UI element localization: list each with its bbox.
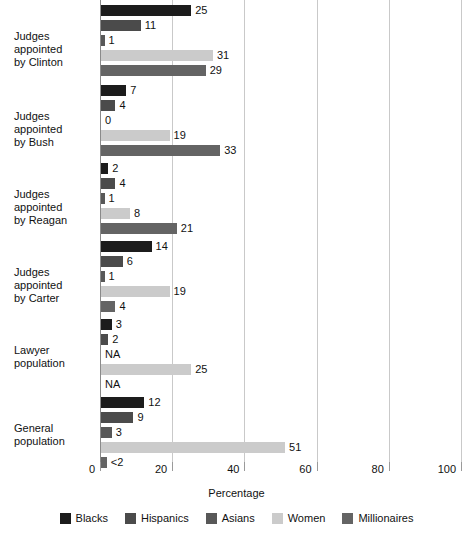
- legend-swatch-icon: [272, 513, 283, 524]
- category-label-1: Judges appointedby Bush: [14, 110, 98, 149]
- bar-chart: 2511131297401933241821146119432NA25NA129…: [0, 0, 473, 538]
- bar-value-label: 14: [156, 241, 168, 252]
- tick-mark-0: [100, 462, 101, 471]
- gridline-60: [317, 0, 318, 462]
- legend-label: Women: [288, 513, 326, 524]
- category-label-line1: Judges appointed: [14, 30, 98, 56]
- category-label-line2: by Clinton: [14, 56, 98, 69]
- bar: [101, 334, 108, 345]
- bar-na-label: NA: [105, 349, 120, 360]
- bar: [101, 397, 144, 408]
- legend-swatch-icon: [342, 513, 353, 524]
- category-label-line1: Judges appointed: [14, 266, 98, 292]
- tick-label-20: 20: [155, 463, 170, 475]
- x-axis-title: Percentage: [0, 487, 473, 499]
- bar: [101, 457, 107, 468]
- bar: [101, 85, 126, 96]
- bar-value-label: 12: [148, 397, 160, 408]
- bar-value-label: 33: [224, 145, 236, 156]
- bar-na-label: 0: [105, 115, 111, 126]
- tick-mark-60: [317, 462, 318, 471]
- bar-value-label: 29: [210, 65, 222, 76]
- bar-value-label: 21: [181, 223, 193, 234]
- bar-value-label: 1: [109, 35, 115, 46]
- bar-value-label: 3: [116, 427, 122, 438]
- category-label-line1: Judges appointed: [14, 110, 98, 136]
- category-label-3: Judges appointedby Carter: [14, 266, 98, 305]
- bar-value-label: 1: [109, 193, 115, 204]
- category-label-2: Judges appointedby Reagan: [14, 188, 98, 227]
- legend-item-women[interactable]: Women: [272, 513, 326, 524]
- bar-value-label: <2: [111, 457, 124, 468]
- bar: [101, 65, 206, 76]
- bar-value-label: 1: [109, 271, 115, 282]
- bar-value-label: 3: [116, 319, 122, 330]
- bar: [101, 442, 285, 453]
- category-label-4: Lawyerpopulation: [14, 344, 98, 370]
- bar: [101, 256, 123, 267]
- bar: [101, 301, 115, 312]
- plot-area: [100, 0, 461, 462]
- gridline-40: [244, 0, 245, 462]
- legend-item-asians[interactable]: Asians: [206, 513, 255, 524]
- bar-na-label: NA: [105, 379, 120, 390]
- bar: [101, 319, 112, 330]
- bar-value-label: 8: [134, 208, 140, 219]
- bar: [101, 427, 112, 438]
- bar: [101, 35, 105, 46]
- bar: [101, 241, 152, 252]
- legend-item-blacks[interactable]: Blacks: [60, 513, 108, 524]
- tick-label-100: 100: [438, 463, 459, 475]
- bar-value-label: 9: [137, 412, 143, 423]
- bar: [101, 130, 170, 141]
- category-label-line2: by Carter: [14, 292, 98, 305]
- category-label-line2: by Reagan: [14, 214, 98, 227]
- tick-mark-40: [244, 462, 245, 471]
- tick-label-80: 80: [372, 463, 387, 475]
- bar: [101, 50, 213, 61]
- category-label-line2: population: [14, 357, 98, 370]
- legend-swatch-icon: [206, 513, 217, 524]
- bar-value-label: 2: [112, 163, 118, 174]
- bar-value-label: 19: [174, 286, 186, 297]
- category-label-line1: General: [14, 422, 98, 435]
- gridline-80: [389, 0, 390, 462]
- legend-label: Blacks: [76, 513, 108, 524]
- legend-label: Hispanics: [141, 513, 189, 524]
- bar: [101, 193, 105, 204]
- tick-mark-20: [172, 462, 173, 471]
- bar: [101, 286, 170, 297]
- bar: [101, 412, 133, 423]
- category-label-5: Generalpopulation: [14, 422, 98, 448]
- bar-value-label: 4: [119, 178, 125, 189]
- bar: [101, 100, 115, 111]
- legend-item-hispanics[interactable]: Hispanics: [125, 513, 189, 524]
- bar-value-label: 4: [119, 301, 125, 312]
- bar: [101, 5, 191, 16]
- bar-value-label: 25: [195, 5, 207, 16]
- legend-label: Millionaires: [358, 513, 413, 524]
- bar-value-label: 31: [217, 50, 229, 61]
- legend-swatch-icon: [125, 513, 136, 524]
- tick-mark-80: [389, 462, 390, 471]
- tick-label-60: 60: [299, 463, 314, 475]
- category-label-line1: Judges appointed: [14, 188, 98, 214]
- tick-mark-100: [461, 462, 462, 471]
- legend-swatch-icon: [60, 513, 71, 524]
- bar: [101, 271, 105, 282]
- legend-item-millionaires[interactable]: Millionaires: [342, 513, 413, 524]
- legend-label: Asians: [222, 513, 255, 524]
- tick-label-40: 40: [227, 463, 242, 475]
- category-label-line1: Lawyer: [14, 344, 98, 357]
- bar: [101, 163, 108, 174]
- bar: [101, 364, 191, 375]
- bar: [101, 20, 141, 31]
- gridline-100: [461, 0, 462, 462]
- category-label-0: Judges appointedby Clinton: [14, 30, 98, 69]
- bar: [101, 223, 177, 234]
- category-label-line2: population: [14, 435, 98, 448]
- bar-value-label: 4: [119, 100, 125, 111]
- bar-value-label: 51: [289, 442, 301, 453]
- bar-value-label: 19: [174, 130, 186, 141]
- bar-value-label: 6: [127, 256, 133, 267]
